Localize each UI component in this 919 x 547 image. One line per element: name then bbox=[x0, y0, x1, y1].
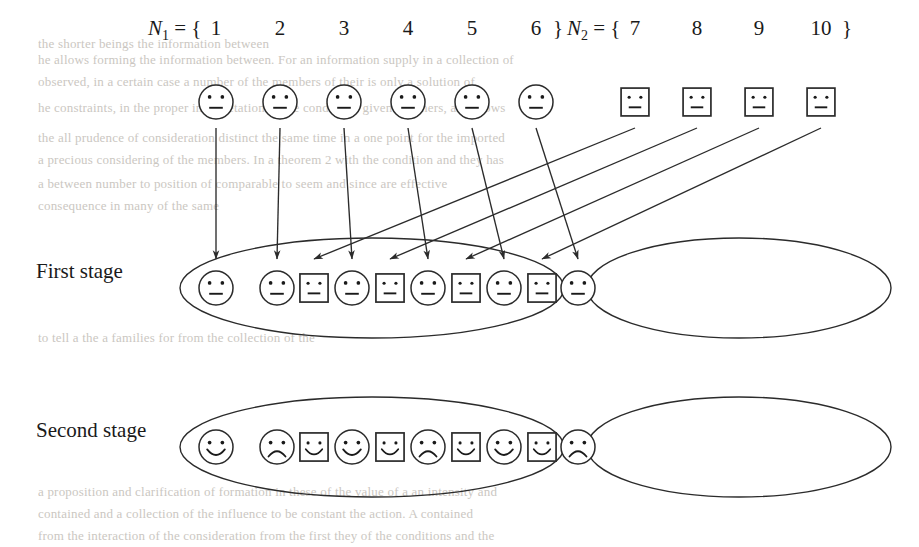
face-eye bbox=[285, 95, 289, 99]
arrow-n2-member-8 bbox=[390, 128, 697, 259]
face-outline-circle bbox=[335, 271, 369, 305]
face-eye bbox=[208, 95, 212, 99]
second-stage-face-6 bbox=[411, 430, 445, 464]
top-n1-face-6 bbox=[519, 85, 553, 119]
face-outline-square bbox=[621, 88, 649, 116]
second-stage-face-8 bbox=[487, 430, 521, 464]
mapping-arrows-group bbox=[216, 128, 821, 259]
first-stage-face-4 bbox=[335, 271, 369, 305]
top-n1-face-3 bbox=[327, 85, 361, 119]
face-eye bbox=[382, 282, 385, 285]
face-eye bbox=[570, 281, 574, 285]
second-stage-face-5 bbox=[376, 433, 404, 461]
face-eye bbox=[464, 95, 468, 99]
arrow-n1-member-3 bbox=[344, 128, 352, 259]
face-eye bbox=[701, 96, 704, 99]
face-eye bbox=[546, 441, 549, 444]
top-n2-face-2 bbox=[683, 88, 711, 116]
set-n1-member-1: 1 bbox=[211, 16, 222, 40]
face-eye bbox=[306, 441, 309, 444]
face-eye bbox=[394, 282, 397, 285]
first-stage-face-7 bbox=[452, 274, 480, 302]
first-stage-face-1 bbox=[199, 271, 233, 305]
stage-groups: First stageSecond stage bbox=[36, 238, 891, 497]
arrow-n1-member-5 bbox=[472, 128, 504, 259]
face-eye bbox=[546, 282, 549, 285]
second-stage-face-3 bbox=[300, 433, 328, 461]
set-n2-close-brace: } bbox=[842, 16, 852, 40]
arrow-n2-member-9 bbox=[466, 128, 759, 259]
set-n1-member-5: 5 bbox=[467, 16, 478, 40]
face-eye bbox=[458, 441, 461, 444]
face-outline-square bbox=[300, 433, 328, 461]
face-eye bbox=[496, 281, 500, 285]
face-outline-square bbox=[376, 274, 404, 302]
face-eye bbox=[221, 95, 225, 99]
first-stage-face-2 bbox=[260, 271, 294, 305]
first-stage-right-coalition-ellipse bbox=[587, 238, 891, 338]
top-faces-group bbox=[199, 85, 835, 119]
face-eye bbox=[583, 281, 587, 285]
face-outline-circle bbox=[519, 85, 553, 119]
face-outline-circle bbox=[199, 85, 233, 119]
face-outline-circle bbox=[327, 85, 361, 119]
second-stage-face-9 bbox=[528, 433, 556, 461]
face-outline-circle bbox=[561, 271, 595, 305]
face-eye bbox=[306, 282, 309, 285]
face-eye bbox=[208, 281, 212, 285]
arrow-n1-member-2 bbox=[277, 128, 280, 259]
face-eye bbox=[570, 441, 574, 445]
second-stage-face-2 bbox=[260, 430, 294, 464]
face-eye bbox=[282, 441, 286, 445]
top-n1-face-4 bbox=[391, 85, 425, 119]
face-outline-circle bbox=[260, 271, 294, 305]
second-stage-face-7 bbox=[452, 433, 480, 461]
face-eye bbox=[382, 441, 385, 444]
set-n1-member-3: 3 bbox=[339, 16, 350, 40]
face-eye bbox=[420, 281, 424, 285]
set-n2-member-7: 7 bbox=[630, 16, 641, 40]
face-outline-circle bbox=[487, 430, 521, 464]
face-eye bbox=[269, 281, 273, 285]
first-stage-face-8 bbox=[487, 271, 521, 305]
face-eye bbox=[541, 95, 545, 99]
face-eye bbox=[752, 96, 755, 99]
face-eye bbox=[357, 441, 361, 445]
face-eye bbox=[763, 96, 766, 99]
face-eye bbox=[534, 282, 537, 285]
face-eye bbox=[814, 96, 817, 99]
second-stage-face-4 bbox=[335, 430, 369, 464]
set-n2-label: N2 = { bbox=[566, 16, 620, 43]
first-stage-label: First stage bbox=[36, 259, 123, 283]
face-eye bbox=[400, 95, 404, 99]
face-eye bbox=[583, 441, 587, 445]
face-eye bbox=[413, 95, 417, 99]
diagram-canvas: N1 = {123456}N2 = {78910} First stageSec… bbox=[0, 0, 919, 547]
face-eye bbox=[272, 95, 276, 99]
face-outline-square bbox=[452, 433, 480, 461]
face-outline-circle bbox=[411, 430, 445, 464]
face-outline-circle bbox=[411, 271, 445, 305]
face-eye bbox=[639, 96, 642, 99]
face-eye bbox=[509, 441, 513, 445]
face-eye bbox=[357, 281, 361, 285]
face-eye bbox=[458, 282, 461, 285]
second-stage-group: Second stage bbox=[36, 397, 891, 497]
face-outline-circle bbox=[199, 430, 233, 464]
face-outline-circle bbox=[455, 85, 489, 119]
face-eye bbox=[336, 95, 340, 99]
top-n1-face-1 bbox=[199, 85, 233, 119]
top-n2-face-1 bbox=[621, 88, 649, 116]
face-eye bbox=[318, 441, 321, 444]
set-labels-group: N1 = {123456}N2 = {78910} bbox=[147, 16, 852, 43]
face-eye bbox=[690, 96, 693, 99]
second-stage-label: Second stage bbox=[36, 418, 146, 442]
face-eye bbox=[433, 441, 437, 445]
set-n1-member-6: 6 bbox=[531, 16, 542, 40]
face-eye bbox=[208, 441, 212, 445]
face-eye bbox=[528, 95, 532, 99]
set-n1-member-2: 2 bbox=[275, 16, 286, 40]
top-n2-face-3 bbox=[745, 88, 773, 116]
face-outline-square bbox=[528, 433, 556, 461]
face-eye bbox=[509, 281, 513, 285]
